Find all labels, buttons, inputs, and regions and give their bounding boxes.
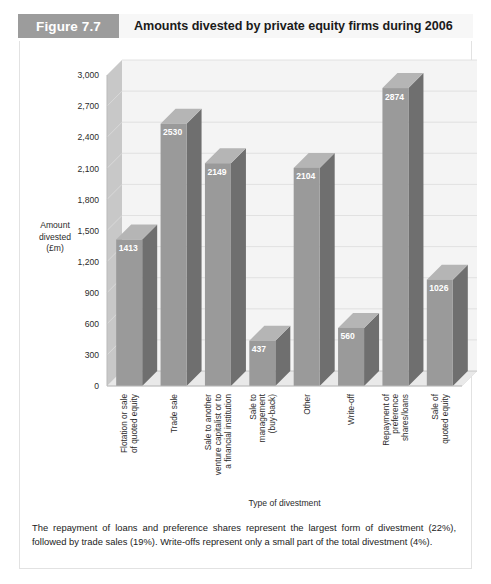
figure-number-badge: Figure 7.7 xyxy=(18,14,119,38)
figure-caption: The repayment of loans and preference sh… xyxy=(32,521,456,549)
figure-body-panel xyxy=(19,41,472,569)
figure-container: Figure 7.7 Amounts divested by private e… xyxy=(0,0,491,584)
figure-title: Amounts divested by private equity firms… xyxy=(134,14,453,38)
figure-header: Figure 7.7 Amounts divested by private e… xyxy=(18,14,473,38)
